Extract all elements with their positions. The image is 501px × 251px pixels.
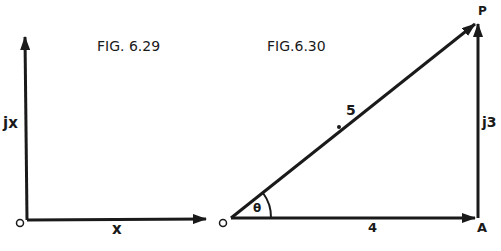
origin-marker [17, 220, 24, 227]
horizontal-label: x [112, 220, 122, 238]
apex-label: P [478, 4, 487, 18]
figure-title: FIG.6.30 [267, 38, 326, 54]
hypotenuse-label: 5 [346, 102, 356, 118]
figure-6-29: FIG. 6.29 jx x [2, 37, 206, 238]
vertical-label: jx [2, 114, 18, 132]
horizontal-label: 4 [368, 220, 377, 235]
end-label: A [477, 220, 487, 235]
diagram-canvas: FIG. 6.29 jx x FIG.6.30 P A 5 j3 4 θ [0, 0, 501, 251]
origin-marker [220, 220, 227, 227]
figure-title: FIG. 6.29 [97, 38, 160, 54]
vertical-axis-jx [25, 37, 27, 220]
midpoint-dot [337, 125, 341, 129]
vertical-label: j3 [481, 114, 497, 130]
angle-label: θ [253, 201, 261, 215]
angle-arc [263, 193, 271, 218]
figure-6-30: FIG.6.30 P A 5 j3 4 θ [220, 4, 497, 235]
